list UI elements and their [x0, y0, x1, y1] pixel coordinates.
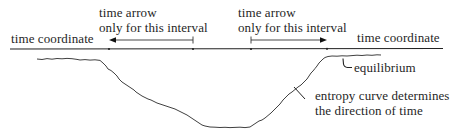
entropy-time-diagram: time coordinate time arrow only for this… [0, 0, 453, 135]
entropy-label-line1: entropy curve determines [315, 89, 450, 103]
interval-1-label-line2: only for this interval [99, 21, 208, 35]
interval-1-arrow [109, 37, 193, 44]
interval-2-label-line2: only for this interval [238, 21, 347, 35]
equilibrium-label: equilibrium [354, 61, 416, 75]
entropy-label-line2: the direction of time [315, 104, 423, 118]
time-coordinate-label-left: time coordinate [11, 32, 94, 46]
time-axis-line [10, 49, 443, 50]
time-coordinate-label-right: time coordinate [357, 31, 440, 45]
entropy-pointer [294, 87, 305, 99]
interval-2-label-line1: time arrow [238, 6, 296, 20]
interval-1-label-line1: time arrow [99, 6, 157, 20]
equilibrium-pointer [343, 59, 352, 68]
interval-2-arrow [251, 37, 327, 44]
